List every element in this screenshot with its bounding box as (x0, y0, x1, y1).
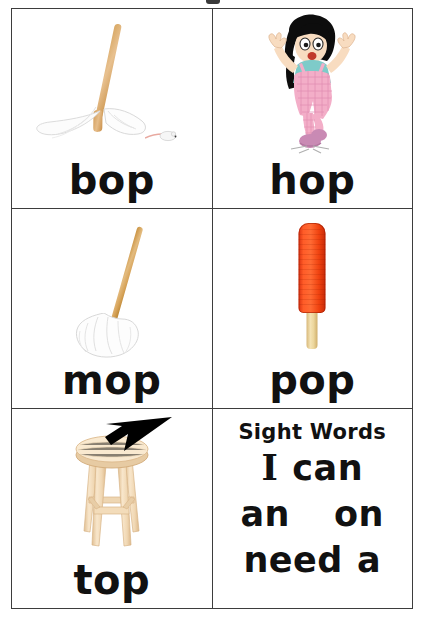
mop-head-shape (68, 313, 142, 359)
card-grid: bop (11, 8, 413, 609)
wooden-stool-with-arrow-icon (12, 409, 212, 557)
card-cell-pop[interactable]: pop (213, 209, 414, 409)
red-popsicle-icon (213, 209, 413, 357)
card-cell-top[interactable]: top (12, 409, 213, 609)
pointer-arrow-icon (98, 415, 174, 465)
sight-words-row-3: need a (219, 537, 407, 583)
popsicle-stick-shape (307, 309, 318, 349)
word-family-worksheet: bop (0, 0, 425, 622)
card-cell-mop[interactable]: mop (12, 209, 213, 409)
sight-words-cell[interactable]: Sight Words I can an on need a (213, 409, 414, 609)
mouse-shape (145, 129, 179, 143)
mop-lying-down-with-mouse-icon (12, 9, 212, 157)
clipped-title-remnant (206, 0, 220, 4)
card-word-top: top (12, 558, 212, 602)
sight-word-can[interactable]: can (292, 445, 363, 491)
girl-hopping-shape (253, 13, 371, 155)
sight-word-an[interactable]: an (240, 491, 290, 537)
sight-word-a[interactable]: a (357, 537, 381, 583)
sight-word-i[interactable]: I (261, 445, 278, 491)
mop-upright-icon (12, 209, 212, 357)
sight-words-heading: Sight Words (238, 419, 386, 445)
popsicle-ice-shape (299, 223, 326, 313)
sight-word-on[interactable]: on (334, 491, 384, 537)
card-cell-hop[interactable]: hop (213, 9, 414, 209)
card-cell-bop[interactable]: bop (12, 9, 213, 209)
sight-words-row-2: an on (219, 491, 407, 537)
card-word-mop: mop (12, 358, 212, 402)
card-word-pop: pop (213, 358, 413, 402)
card-word-bop: bop (12, 158, 212, 202)
sight-words-row-1: I can (219, 445, 407, 491)
mop-head-shape (34, 105, 154, 149)
girl-hopping-icon (213, 9, 413, 157)
sight-word-need[interactable]: need (243, 537, 342, 583)
mop-handle-shape (111, 226, 144, 322)
card-word-hop: hop (213, 158, 413, 202)
